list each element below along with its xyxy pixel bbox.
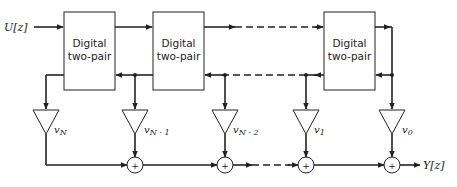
block-2-label-line2: two-pair <box>157 50 201 62</box>
coef-label-v0: v0 <box>402 124 413 137</box>
coef-label-vN-1: vN - 1 <box>144 124 170 137</box>
junction-dot <box>390 73 394 77</box>
junction-dot <box>133 73 137 77</box>
block-3-label-line1: Digital <box>332 37 366 49</box>
coef-label-vN: vN <box>54 124 68 137</box>
coef-label-v1: v1 <box>314 124 325 137</box>
block-3-label-line2: two-pair <box>328 50 372 62</box>
junction-dot <box>223 73 227 77</box>
tapped-cascade-diagram: U[z] Y[z] Digital two-pair Digital two-p… <box>0 0 457 187</box>
adder-2-symbol: + <box>221 161 229 171</box>
block-1-label-line2: two-pair <box>68 50 112 62</box>
adder-1-symbol: + <box>131 161 139 171</box>
adder-3-symbol: + <box>302 161 310 171</box>
block-1-label-line1: Digital <box>72 37 106 49</box>
junction-dot <box>304 73 308 77</box>
input-label: U[z] <box>4 21 28 34</box>
coef-label-vN-2: vN - 2 <box>233 124 259 137</box>
block-2-label-line1: Digital <box>161 37 195 49</box>
output-label: Y[z] <box>423 159 445 172</box>
adder-4-symbol: + <box>388 161 396 171</box>
